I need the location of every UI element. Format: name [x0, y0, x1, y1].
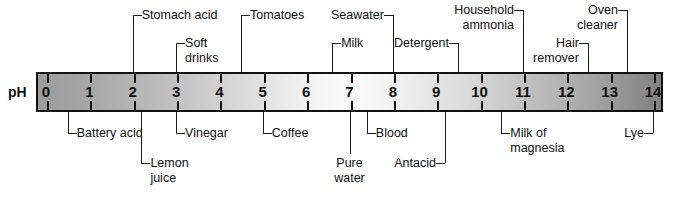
callout-above-8-stem	[627, 10, 628, 72]
scale-number-12: 12	[558, 81, 575, 103]
scale-number-1: 1	[85, 81, 93, 103]
scale-number-11: 11	[515, 81, 531, 103]
scale-number-10: 10	[471, 81, 488, 103]
scale-number-6: 6	[302, 81, 310, 103]
callout-below-8-stem	[653, 112, 654, 133]
callout-below-8-text: Lye	[0, 126, 644, 141]
callout-below-6-text: Antacid	[0, 156, 436, 171]
scale-number-9: 9	[432, 81, 440, 103]
callout-above-7-elbow	[579, 43, 588, 44]
scale-number-7: 7	[345, 81, 353, 103]
scale-number-0: 0	[42, 81, 50, 103]
scale-number-5: 5	[259, 81, 267, 103]
callout-above-7-text: Hair remover	[0, 36, 579, 65]
scale-number-14: 14	[645, 81, 662, 103]
callout-above-8-elbow	[618, 10, 627, 11]
scale-number-13: 13	[601, 81, 618, 103]
callout-below-6-elbow	[436, 163, 445, 164]
scale-number-8: 8	[389, 81, 397, 103]
ph-scale-diagram: pH 01234567891011121314 Stomach acidSoft…	[0, 0, 683, 198]
callout-above-7-stem	[588, 43, 589, 72]
scale-number-2: 2	[129, 81, 137, 103]
callout-above-8-text: Oven cleaner	[0, 3, 618, 32]
scale-number-3: 3	[172, 81, 180, 103]
ph-axis-label: pH	[8, 82, 27, 102]
callout-below-8-elbow	[644, 133, 653, 134]
scale-number-4: 4	[215, 81, 223, 103]
